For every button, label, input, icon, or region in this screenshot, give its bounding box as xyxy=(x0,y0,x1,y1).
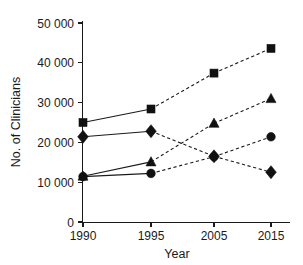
clinicians-line-chart: 50 000 40 000 30 000 20 000 10 000 0 199… xyxy=(0,0,303,265)
marker-square-1990 xyxy=(79,119,87,127)
x-axis-title: Year xyxy=(164,247,189,261)
y-tick-label-0: 0 xyxy=(67,216,74,230)
marker-square-2015 xyxy=(267,44,275,52)
y-tick-label-30000: 30 000 xyxy=(37,96,74,110)
y-tick-label-50000: 50 000 xyxy=(37,17,74,31)
chart-figure: 50 000 40 000 30 000 20 000 10 000 0 199… xyxy=(0,0,303,265)
marker-circle-1995 xyxy=(147,169,156,178)
y-axis-title: No. of Clinicians xyxy=(9,77,23,167)
y-tick-label-10000: 10 000 xyxy=(37,176,74,190)
y-tick-label-40000: 40 000 xyxy=(37,56,74,70)
x-tick-label-1990: 1990 xyxy=(70,229,97,243)
marker-square-1995 xyxy=(147,105,155,113)
marker-circle-1990 xyxy=(79,172,88,181)
marker-circle-2015 xyxy=(267,133,276,142)
x-tick-label-1995: 1995 xyxy=(138,229,165,243)
x-tick-label-2005: 2005 xyxy=(201,229,228,243)
y-tick-label-20000: 20 000 xyxy=(37,136,74,150)
marker-square-2005 xyxy=(210,69,218,77)
x-tick-label-2015: 2015 xyxy=(258,229,285,243)
